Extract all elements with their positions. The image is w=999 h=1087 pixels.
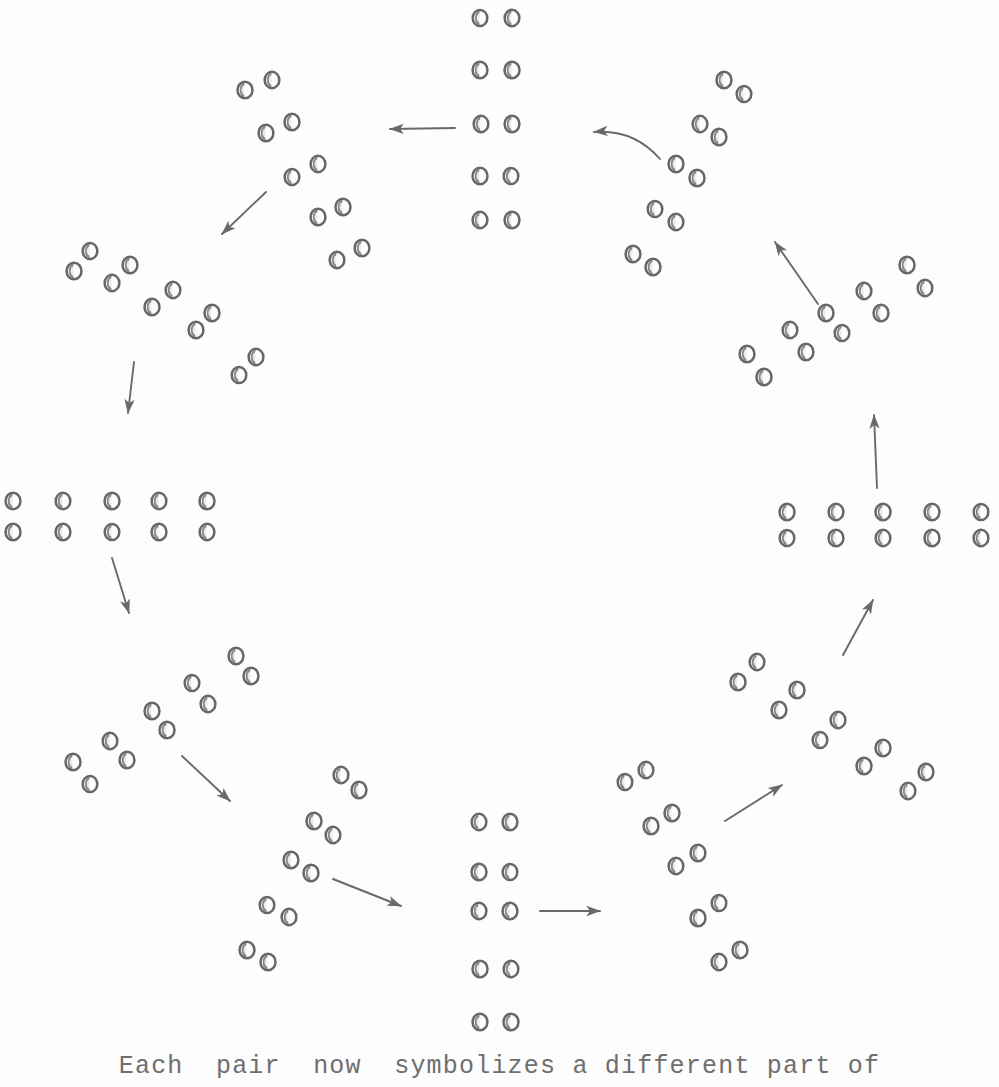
flow-arrow xyxy=(594,132,660,159)
ring-glyph xyxy=(473,62,488,78)
ring-glyph xyxy=(618,774,633,790)
ring-glyph xyxy=(326,827,341,843)
ring-glyph xyxy=(712,954,727,970)
ring-glyph xyxy=(105,275,120,291)
ring-glyph xyxy=(260,954,275,971)
ring-pair xyxy=(103,733,135,768)
pair-group xyxy=(66,648,259,792)
ring-glyph xyxy=(772,702,787,718)
ring-glyph xyxy=(691,845,706,861)
ring-pair xyxy=(712,942,748,970)
ring-glyph xyxy=(835,325,850,341)
ring-pair xyxy=(472,814,518,830)
ring-glyph xyxy=(249,349,264,365)
ring-pair xyxy=(618,762,654,790)
ring-glyph xyxy=(648,201,663,217)
ring-glyph xyxy=(504,168,519,184)
figure-caption: Each pair now symbolizes a different par… xyxy=(0,1052,999,1081)
ring-pair xyxy=(693,116,727,145)
ring-glyph xyxy=(166,282,181,298)
ring-glyph xyxy=(284,852,299,868)
ring-glyph xyxy=(199,493,214,510)
ring-glyph xyxy=(756,369,771,386)
ring-glyph xyxy=(875,504,890,521)
diagram-canvas xyxy=(0,0,999,1087)
ring-glyph xyxy=(311,156,326,172)
ring-glyph xyxy=(205,305,220,322)
flow-arrow xyxy=(112,558,129,613)
ring-pair xyxy=(669,845,706,874)
ring-glyph xyxy=(925,530,940,547)
ring-glyph xyxy=(918,280,933,296)
ring-pair xyxy=(772,682,805,718)
ring-pair xyxy=(185,675,216,712)
ring-glyph xyxy=(352,782,367,798)
ring-glyph xyxy=(244,668,259,685)
ring-glyph xyxy=(260,897,275,913)
flow-arrow xyxy=(874,415,877,488)
ring-glyph xyxy=(152,493,167,509)
ring-pair xyxy=(925,504,940,546)
ring-glyph xyxy=(505,116,520,132)
ring-glyph xyxy=(285,114,300,131)
ring-glyph xyxy=(185,675,200,691)
ring-glyph xyxy=(504,62,519,79)
ring-glyph xyxy=(974,530,989,546)
ring-glyph xyxy=(105,524,120,540)
ring-glyph xyxy=(857,283,872,299)
ring-pair xyxy=(474,116,520,132)
ring-pair xyxy=(473,1014,519,1031)
pair-group xyxy=(237,72,369,268)
ring-glyph xyxy=(876,530,891,546)
ring-glyph xyxy=(304,865,319,882)
ring-pair xyxy=(473,168,519,185)
ring-glyph xyxy=(472,864,487,881)
ring-glyph xyxy=(639,762,654,778)
ring-pair xyxy=(67,243,98,279)
ring-glyph xyxy=(66,754,81,771)
ring-pair xyxy=(740,346,772,386)
ring-glyph xyxy=(240,942,255,958)
ring-glyph xyxy=(712,895,727,911)
ring-glyph xyxy=(265,72,280,88)
ring-glyph xyxy=(120,752,135,768)
ring-glyph xyxy=(691,910,706,927)
ring-glyph xyxy=(67,263,82,280)
ring-glyph xyxy=(740,346,755,362)
ring-glyph xyxy=(899,257,914,274)
ring-pair xyxy=(145,703,175,739)
ring-pair xyxy=(284,852,319,881)
ring-glyph xyxy=(813,732,828,748)
pair-group xyxy=(472,814,519,1030)
ring-pair xyxy=(644,805,680,835)
ring-glyph xyxy=(875,740,890,757)
ring-glyph xyxy=(737,86,752,102)
ring-glyph xyxy=(669,156,684,172)
ring-glyph xyxy=(780,530,795,546)
ring-glyph xyxy=(829,530,844,546)
ring-pair xyxy=(152,493,167,540)
ring-glyph xyxy=(503,864,518,880)
ring-pair xyxy=(473,10,520,26)
ring-glyph xyxy=(644,818,659,834)
ring-pair xyxy=(829,504,844,546)
ring-pair xyxy=(819,305,850,341)
ring-glyph xyxy=(504,1014,519,1031)
pair-group xyxy=(67,243,264,383)
ring-pair xyxy=(189,305,220,338)
ring-glyph xyxy=(355,240,370,256)
ring-glyph xyxy=(505,10,520,26)
ring-glyph xyxy=(733,942,748,958)
ring-glyph xyxy=(901,783,916,799)
ring-pair xyxy=(473,212,520,228)
ring-pair xyxy=(237,72,279,98)
ring-pair xyxy=(472,864,518,881)
ring-glyph xyxy=(919,764,934,780)
ring-glyph xyxy=(819,305,834,322)
pair-group xyxy=(730,654,933,799)
ring-pair xyxy=(240,942,276,971)
ring-glyph xyxy=(790,682,805,699)
ring-glyph xyxy=(6,493,21,509)
pair-group xyxy=(626,72,752,276)
ring-glyph xyxy=(335,199,350,216)
